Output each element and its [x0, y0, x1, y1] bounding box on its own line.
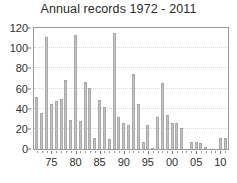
x-tick [196, 151, 197, 154]
bar [122, 123, 125, 149]
bar [88, 88, 91, 150]
bars-series [34, 28, 228, 149]
annual-records-bar-chart: Annual records 1972 - 2011 0204060801001… [0, 0, 237, 183]
chart-title: Annual records 1972 - 2011 [0, 2, 237, 16]
bar [117, 117, 120, 149]
bar [204, 147, 207, 149]
bar [142, 142, 145, 149]
x-minor-tick [133, 151, 134, 153]
x-minor-tick [186, 151, 187, 153]
bar [199, 143, 202, 149]
bar [151, 148, 154, 149]
y-tick-label: 60 [16, 83, 28, 94]
bar [113, 33, 116, 149]
x-minor-tick [182, 151, 183, 153]
y-tick-label: 40 [16, 103, 28, 114]
bar [50, 104, 53, 149]
y-tick [28, 149, 31, 150]
bar [161, 83, 164, 149]
bar [40, 113, 43, 149]
x-minor-tick [167, 151, 168, 153]
y-tick [28, 128, 31, 129]
bar [171, 123, 174, 149]
plot-area [33, 27, 229, 150]
bar [132, 74, 135, 149]
x-minor-tick [177, 151, 178, 153]
bar [180, 128, 183, 149]
x-minor-tick [37, 151, 38, 153]
x-minor-tick [90, 151, 91, 153]
x-minor-tick [85, 151, 86, 153]
x-minor-tick [162, 151, 163, 153]
bar [69, 120, 72, 149]
x-tick-label: 05 [190, 157, 202, 168]
x-axis: 7580859095000510 [33, 151, 229, 177]
y-tick [28, 108, 31, 109]
x-minor-tick [201, 151, 202, 153]
x-minor-tick [225, 151, 226, 153]
bar [60, 99, 63, 149]
bar [103, 107, 106, 149]
x-minor-tick [104, 151, 105, 153]
x-minor-tick [109, 151, 110, 153]
y-tick-label: 80 [16, 63, 28, 74]
bar [219, 138, 222, 149]
bar [55, 101, 58, 149]
x-tick-label: 10 [214, 157, 226, 168]
x-minor-tick [95, 151, 96, 153]
x-tick [220, 151, 221, 154]
bar [84, 82, 87, 149]
x-tick-label: 95 [142, 157, 154, 168]
x-minor-tick [206, 151, 207, 153]
bar [146, 125, 149, 149]
x-tick [76, 151, 77, 154]
x-tick-label: 00 [166, 157, 178, 168]
x-tick-label: 85 [94, 157, 106, 168]
x-tick-label: 80 [69, 157, 81, 168]
x-tick [100, 151, 101, 154]
y-axis: 020406080100120 [0, 27, 31, 150]
x-minor-tick [215, 151, 216, 153]
x-minor-tick [66, 151, 67, 153]
x-minor-tick [143, 151, 144, 153]
x-tick [172, 151, 173, 154]
y-tick-label: 100 [10, 43, 28, 54]
bar [45, 37, 48, 149]
x-tick [124, 151, 125, 154]
x-minor-tick [47, 151, 48, 153]
x-minor-tick [61, 151, 62, 153]
x-tick [51, 151, 52, 154]
y-tick [28, 48, 31, 49]
bar [93, 138, 96, 149]
bar [224, 138, 227, 149]
y-tick-label: 120 [10, 23, 28, 34]
bar [98, 100, 101, 149]
x-tick [148, 151, 149, 154]
x-minor-tick [158, 151, 159, 153]
x-minor-tick [80, 151, 81, 153]
x-minor-tick [211, 151, 212, 153]
bar [108, 139, 111, 149]
bar [175, 123, 178, 149]
bar [156, 117, 159, 149]
bar [74, 35, 77, 149]
bar [190, 142, 193, 149]
y-tick [28, 28, 31, 29]
x-tick-label: 75 [45, 157, 57, 168]
y-tick-label: 20 [16, 123, 28, 134]
y-tick [28, 88, 31, 89]
x-minor-tick [114, 151, 115, 153]
bar [166, 115, 169, 149]
x-minor-tick [56, 151, 57, 153]
x-minor-tick [71, 151, 72, 153]
x-minor-tick [42, 151, 43, 153]
bar [127, 125, 130, 149]
x-minor-tick [138, 151, 139, 153]
bar [137, 104, 140, 149]
x-minor-tick [129, 151, 130, 153]
bar [79, 121, 82, 149]
x-minor-tick [153, 151, 154, 153]
bar [64, 80, 67, 149]
y-tick [28, 68, 31, 69]
x-minor-tick [119, 151, 120, 153]
